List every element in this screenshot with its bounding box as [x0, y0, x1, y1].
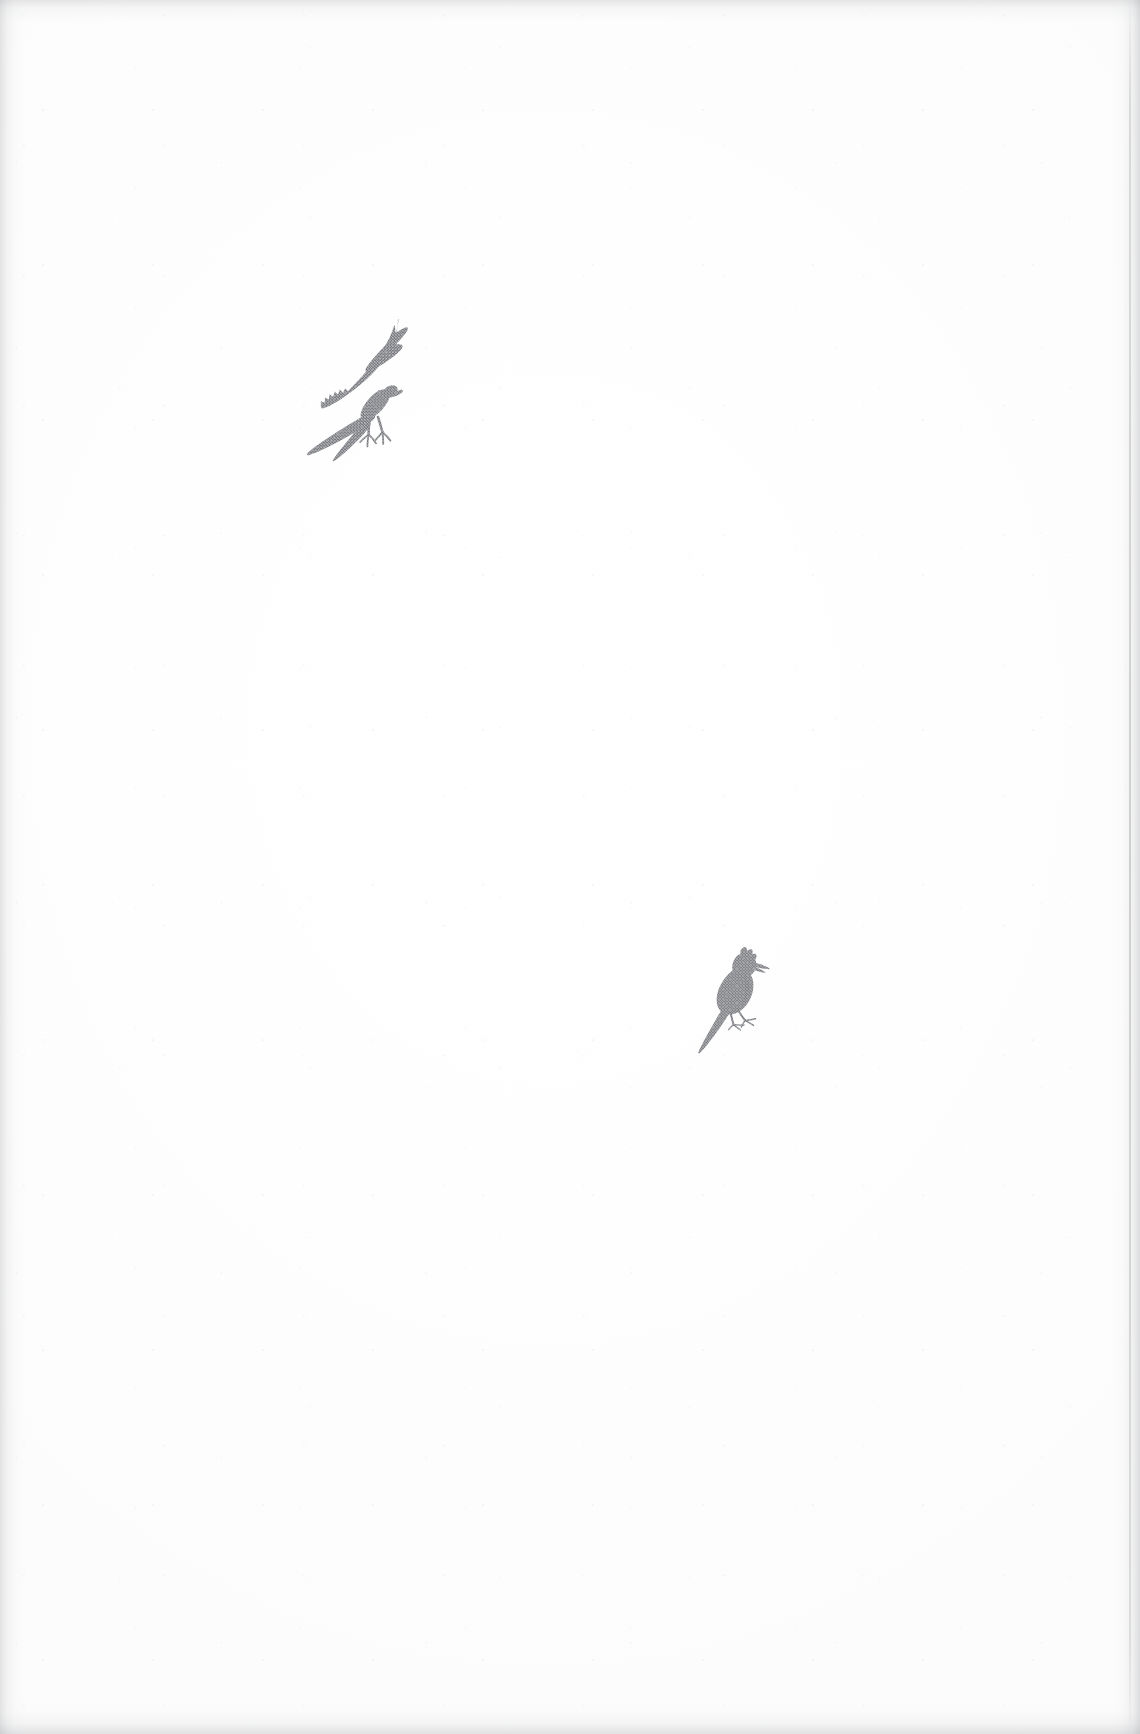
page-trim-line-right [1129, 0, 1131, 1734]
page-edge-shadow-top [0, 0, 1140, 22]
flying-bird-illustration: Bird of prey in flight [302, 314, 422, 482]
paper-background [0, 0, 1140, 1734]
page-edge-shadow-bottom [0, 1700, 1140, 1734]
scanned-page: Bird of prey in flight [0, 0, 1140, 1734]
page-edge-shadow-left [0, 0, 26, 1734]
flying-bird-icon [302, 314, 422, 482]
perched-bird-illustration: Small perched songbird [692, 944, 782, 1056]
page-edge-shadow-right [1110, 0, 1140, 1734]
perched-bird-icon [692, 944, 782, 1056]
